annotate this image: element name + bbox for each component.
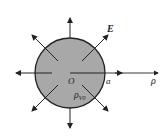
origin-label: O <box>68 76 75 86</box>
field-label-e: E <box>106 23 114 34</box>
radius-label: a <box>106 76 111 86</box>
charged-sphere-diagram: E O a ρ ρV0 <box>0 0 168 136</box>
axis-label-rho: ρ <box>150 75 156 86</box>
